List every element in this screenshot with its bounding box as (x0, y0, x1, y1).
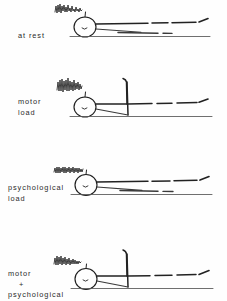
bulb-circle-icon (75, 269, 97, 290)
trace-dash-2 (172, 22, 196, 23)
bulb-inner-mark-icon (82, 28, 87, 29)
trace-terminal-uptick (199, 19, 208, 23)
bulb-stem-icon (85, 12, 86, 17)
panel-at-rest: at rest (0, 0, 227, 72)
emg-burst-icon (57, 78, 82, 92)
bulb-circle-icon (74, 17, 96, 37)
emg-burst-icon (55, 4, 82, 13)
trace-at-rest (0, 0, 227, 72)
trace-line-lower (97, 187, 142, 190)
trace-dash-2 (177, 275, 196, 276)
trace-line-upper (97, 181, 148, 182)
bulb-stem-icon (86, 264, 87, 269)
bulb-inner-mark-icon (82, 108, 87, 109)
emg-burst-icon (54, 256, 81, 265)
panel-motor-plus-psychological: motor + psychological (0, 240, 227, 301)
trace-dash-2 (177, 103, 197, 104)
panel-psychological-load: psychological load (0, 155, 227, 227)
bulb-inner-mark-icon (83, 186, 88, 187)
bulb-stem-icon (85, 92, 86, 97)
motor-spike-downstroke (127, 254, 128, 287)
bulb-circle-icon (75, 175, 97, 196)
physiological-trace-figure: at rest motor load (0, 0, 227, 301)
bulb-inner-mark-icon (83, 280, 88, 281)
trace-line-lower (97, 281, 128, 287)
trace-line-upper (96, 23, 148, 24)
emg-burst-icon (54, 167, 83, 173)
trace-dash-2 (174, 180, 197, 181)
trace-terminal-uptick (199, 271, 209, 275)
trace-lower-dash-1 (118, 33, 158, 34)
trace-line-lower (96, 109, 128, 115)
trace-lower-dash-1 (120, 191, 158, 192)
trace-psychological-load (0, 155, 227, 227)
panel-motor-load: motor load (0, 75, 227, 147)
trace-motor-load (0, 75, 227, 147)
trace-terminal-uptick (200, 177, 209, 181)
trace-motor-plus-psychological (0, 240, 227, 301)
trace-line-lower (96, 29, 141, 32)
motor-spike-downstroke (127, 82, 128, 115)
bulb-stem-icon (86, 170, 87, 175)
bulb-circle-icon (74, 97, 96, 117)
trace-terminal-uptick (199, 99, 208, 102)
